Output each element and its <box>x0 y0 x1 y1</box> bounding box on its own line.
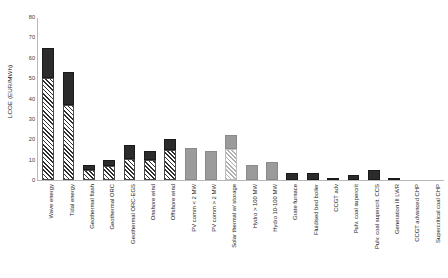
bar-segment-upper <box>63 72 75 105</box>
bar-segment-upper <box>144 151 156 159</box>
x-tick-label-text: Grate furnace <box>293 183 299 275</box>
y-tick-label: 0 <box>18 178 35 184</box>
bar-segment-upper <box>225 135 237 149</box>
x-tick-label-text: CCGT adv <box>334 183 340 275</box>
bar-segment-upper <box>164 139 176 150</box>
x-tick-label: Hydro > 100 MW <box>245 183 257 275</box>
x-tick-label: Supercritical coal CHP <box>428 183 440 275</box>
bar-segment-lower <box>124 159 136 180</box>
bar-group[interactable] <box>266 162 278 180</box>
bar-group[interactable] <box>144 151 156 180</box>
bar-group[interactable] <box>63 72 75 180</box>
x-tick-label-text: Pulv. coal supercrit <box>354 183 360 275</box>
bar-segment-upper <box>246 165 258 180</box>
x-tick-label: CCGT advanced CHP <box>407 183 419 275</box>
x-tick-label: Wave energy <box>41 183 53 275</box>
x-tick-label: Grate furnace <box>285 183 297 275</box>
bar-segment-lower <box>225 149 237 180</box>
x-tick-label: Onshore wind <box>143 183 155 275</box>
bar-segment-upper <box>286 173 298 180</box>
y-tick-label: 30 <box>18 117 35 123</box>
y-axis-tick-labels: 01020304050607080 <box>18 0 35 182</box>
y-axis-title-text: LCOE (EUR/MWh) <box>7 64 14 117</box>
x-tick-label: Geothermal ORC <box>102 183 114 275</box>
x-tick-label-text: Wave energy <box>49 183 55 275</box>
bar-segment-lower <box>144 160 156 180</box>
x-tick-label: Fluidised bed boiler <box>306 183 318 275</box>
bars-layer <box>38 18 444 180</box>
y-tick-label: 20 <box>18 137 35 143</box>
x-tick-label-text: Geothermal ORC-EGS <box>131 183 137 275</box>
bar-group[interactable] <box>225 135 237 180</box>
bar-segment-upper <box>307 173 319 180</box>
bar-segment-upper <box>185 148 197 180</box>
x-tick-label: CCGT adv <box>326 183 338 275</box>
bar-segment-lower <box>42 78 54 180</box>
bar-group[interactable] <box>327 178 339 180</box>
x-tick-label-text: Generation III LWR <box>395 183 401 275</box>
bar-group[interactable] <box>205 151 217 180</box>
x-tick-label-text: Geothermal flash <box>90 183 96 275</box>
x-tick-label: PV comm < 2 MW <box>184 183 196 275</box>
x-tick-label: Tidal energy <box>62 183 74 275</box>
x-tick-label: Geothermal ORC-EGS <box>123 183 135 275</box>
x-tick-label-text: Onshore wind <box>151 183 157 275</box>
x-tick-label: Geothermal flash <box>82 183 94 275</box>
y-tick-label: 40 <box>18 97 35 103</box>
bar-segment-upper <box>42 48 54 79</box>
bar-segment-lower <box>63 105 75 180</box>
bar-group[interactable] <box>388 178 400 180</box>
bar-group[interactable] <box>348 175 360 180</box>
x-tick-label-text: Hydro 10-100 MW <box>273 183 279 275</box>
x-tick-label-text: CCGT advanced CHP <box>416 183 422 275</box>
x-tick-label-text: Hydro > 100 MW <box>253 183 259 275</box>
bar-segment-lower <box>103 166 115 180</box>
y-tick-label: 10 <box>18 158 35 164</box>
x-tick-label-text: Solar thermal w/ storage <box>232 183 238 275</box>
x-tick-label-text: PV comm > 2 MW <box>212 183 218 275</box>
bar-group[interactable] <box>286 173 298 180</box>
x-tick-label: Offshore wind <box>163 183 175 275</box>
bar-group[interactable] <box>307 173 319 180</box>
bar-group[interactable] <box>103 160 115 180</box>
bar-segment-upper <box>368 170 380 180</box>
bar-group[interactable] <box>368 170 380 180</box>
bar-segment-upper <box>124 145 136 158</box>
x-axis-tick-labels: Wave energyTidal energyGeothermal flashG… <box>37 183 444 278</box>
y-tick-label: 70 <box>18 36 35 42</box>
bar-group[interactable] <box>185 148 197 180</box>
x-tick-label: Pulv. coal supercrit <box>346 183 358 275</box>
bar-group[interactable] <box>42 48 54 180</box>
bar-segment-upper <box>388 178 400 180</box>
bar-group[interactable] <box>164 139 176 180</box>
y-tick-label: 60 <box>18 56 35 62</box>
x-tick-label-text: Tidal energy <box>70 183 76 275</box>
x-tick-label: Solar thermal w/ storage <box>224 183 236 275</box>
bar-segment-lower <box>83 170 95 180</box>
y-tick-label: 80 <box>18 15 35 21</box>
bar-segment-lower <box>164 150 176 180</box>
bar-group[interactable] <box>246 165 258 180</box>
bar-group[interactable] <box>124 145 136 180</box>
y-tick-label: 50 <box>18 76 35 82</box>
x-tick-label-text: Offshore wind <box>171 183 177 275</box>
bar-segment-upper <box>266 162 278 180</box>
bar-segment-upper <box>327 178 339 180</box>
x-tick-label-text: Supercritical coal CHP <box>436 183 442 275</box>
x-tick-label-text: Fluidised bed boiler <box>314 183 320 275</box>
y-axis-title: LCOE (EUR/MWh) <box>2 0 18 182</box>
x-tick-label-text: Pulv. coal supercrit. CCS <box>375 183 381 275</box>
lcoe-bar-chart: LCOE (EUR/MWh) 01020304050607080 Wave en… <box>0 0 448 278</box>
bar-segment-upper <box>205 151 217 180</box>
x-tick-label-text: Geothermal ORC <box>110 183 116 275</box>
x-tick-label: PV comm > 2 MW <box>204 183 216 275</box>
bar-group[interactable] <box>83 165 95 180</box>
x-tick-label: Pulv. coal supercrit. CCS <box>367 183 379 275</box>
x-tick-label: Hydro 10-100 MW <box>265 183 277 275</box>
x-tick-label-text: PV comm < 2 MW <box>192 183 198 275</box>
x-tick-label: Generation III LWR <box>387 183 399 275</box>
bar-segment-upper <box>348 175 360 180</box>
plot-area <box>37 18 444 181</box>
